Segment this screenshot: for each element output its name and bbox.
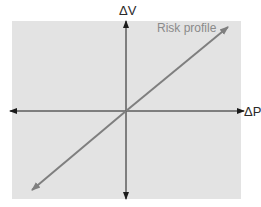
y-axis-label: ΔV xyxy=(119,3,136,18)
chart-svg xyxy=(0,0,261,207)
risk-profile-line xyxy=(126,27,228,111)
x-axis-label: ΔP xyxy=(244,104,261,119)
risk-profile-label: Risk profile xyxy=(157,21,216,35)
